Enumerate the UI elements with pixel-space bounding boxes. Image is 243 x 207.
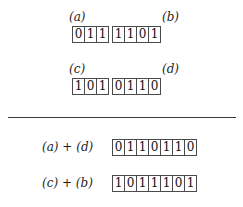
parent-2-bitstrip: 1 0 1 0 1 1 0	[72, 78, 176, 95]
bit-cell: 1	[184, 175, 197, 192]
parent-1-labels: (a) (b)	[72, 11, 176, 26]
offspring-1-expression: (a) + (d)	[42, 139, 104, 156]
offspring-1-bits: 0 1 1 0 1 1 0	[112, 139, 197, 156]
bit-cell: 1	[96, 78, 109, 95]
parent-2-labels: (c) (d)	[72, 63, 176, 78]
segment-d: 0 1 1 0	[112, 78, 161, 95]
segment-a: 0 1 1	[72, 26, 109, 43]
offspring-row-1: (a) + (d) 0 1 1 0 1 1 0	[0, 137, 243, 157]
bit-cell: 1	[96, 26, 109, 43]
segment-label-c: (c)	[69, 63, 85, 76]
segment-label-a: (a)	[69, 11, 86, 24]
parent-chromosome-1: (a) (b) 0 1 1 1 1 0 1	[72, 11, 176, 43]
section-divider	[8, 117, 236, 118]
segment-c: 1 0 1	[72, 78, 109, 95]
bit-cell: 0	[184, 139, 197, 156]
segment-b: 1 1 0 1	[112, 26, 161, 43]
segment-label-b: (b)	[162, 11, 179, 24]
offspring-2-bits: 1 0 1 1 1 0 1	[112, 175, 197, 192]
bit-cell: 1	[148, 26, 161, 43]
parent-chromosome-2: (c) (d) 1 0 1 0 1 1 0	[72, 63, 176, 95]
crossover-figure: (a) (b) 0 1 1 1 1 0 1 (c) (d) 1	[0, 0, 243, 207]
bit-cell: 0	[148, 78, 161, 95]
offspring-row-2: (c) + (b) 1 0 1 1 1 0 1	[0, 173, 243, 193]
parent-1-bitstrip: 0 1 1 1 1 0 1	[72, 26, 176, 43]
segment-label-d: (d)	[162, 63, 179, 76]
offspring-2-bitstrip: 1 0 1 1 1 0 1	[112, 175, 197, 192]
offspring-1-bitstrip: 0 1 1 0 1 1 0	[112, 139, 197, 156]
offspring-2-expression: (c) + (b)	[42, 175, 104, 192]
